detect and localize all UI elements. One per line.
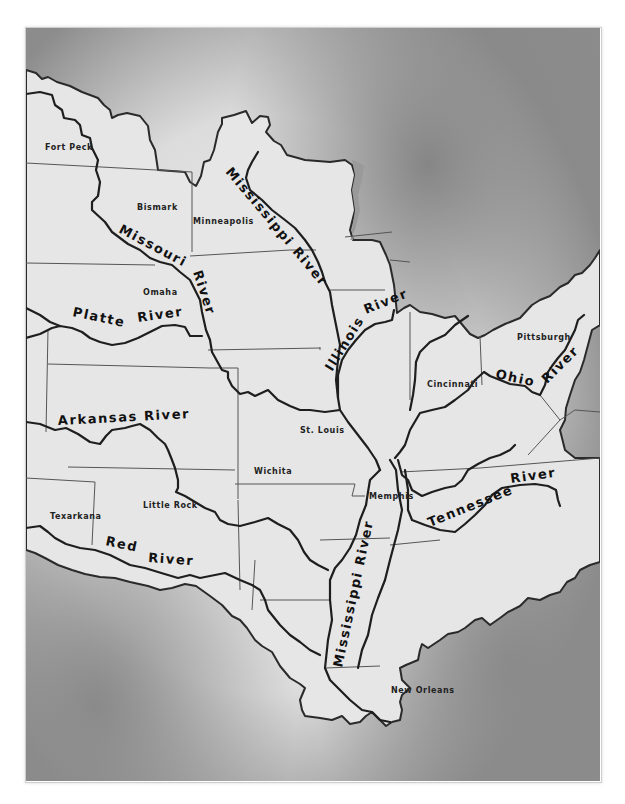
city-texarkana: Texarkana xyxy=(50,512,102,521)
city-fort-peck: Fort Peck xyxy=(45,143,93,152)
city-bismark: Bismark xyxy=(137,203,178,212)
city-wichita: Wichita xyxy=(254,467,292,476)
city-pittsburgh: Pittsburgh xyxy=(517,333,571,342)
label-red-river: River xyxy=(148,550,195,568)
river-basin-map: Missouri River Mississippi River Platte … xyxy=(0,0,625,804)
city-cincinnati: Cincinnati xyxy=(427,380,478,389)
city-little-rock: Little Rock xyxy=(143,501,198,510)
city-new-orleans: New Orleans xyxy=(391,686,455,695)
city-minneapolis: Minneapolis xyxy=(193,217,254,226)
city-omaha: Omaha xyxy=(143,288,178,297)
city-memphis: Memphis xyxy=(369,492,414,501)
city-st-louis: St. Louis xyxy=(300,426,345,435)
